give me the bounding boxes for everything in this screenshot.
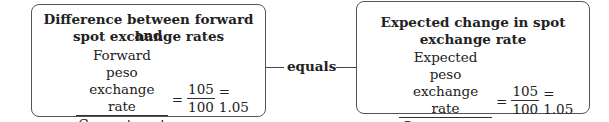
ratio-equation: Forward peso exchange rate Current spot …	[76, 47, 265, 122]
numerator: Expected peso exchange rate	[399, 49, 492, 117]
box-title-line1: Expected change in spot	[357, 14, 589, 30]
connector-label: equals	[287, 58, 336, 74]
numerator: Forward peso exchange rate	[76, 47, 168, 115]
value-denominator: 100	[512, 101, 538, 118]
result: = 1.05	[219, 83, 261, 115]
value-numerator: 105	[187, 81, 215, 98]
box-title-line2: spot exchange rates	[32, 28, 265, 44]
expected-spot-change-box: Expected change in spot exchange rate Ex…	[356, 1, 590, 114]
denominator-line1: Current spot	[402, 118, 489, 122]
ratio-fraction: Forward peso exchange rate Current spot …	[76, 47, 168, 122]
value-fraction: 105 100	[187, 81, 215, 116]
forward-spot-difference-box: Difference between forward and spot exch…	[31, 4, 266, 117]
equals-sign: =	[172, 91, 183, 107]
value-denominator: 100	[188, 99, 214, 116]
numerator-line1: Forward peso	[77, 47, 167, 81]
numerator-line1: Expected peso	[400, 49, 491, 83]
connector-line-left	[266, 67, 284, 68]
ratio-equation: Expected peso exchange rate Current spot…	[399, 49, 589, 122]
result: = 1.05	[543, 85, 585, 117]
denominator: Current spot rate	[402, 118, 489, 122]
denominator-line1: Current spot	[78, 116, 165, 122]
connector-line-right	[336, 67, 356, 68]
value-numerator: 105	[511, 83, 539, 100]
value-fraction: 105 100	[511, 83, 539, 118]
ratio-fraction: Expected peso exchange rate Current spot…	[399, 49, 492, 122]
equals-sign: =	[496, 93, 507, 109]
denominator: Current spot rate	[78, 116, 165, 122]
numerator-line2: exchange rate	[400, 83, 491, 117]
box-title-line2: exchange rate	[357, 31, 589, 47]
numerator-line2: exchange rate	[77, 81, 167, 115]
